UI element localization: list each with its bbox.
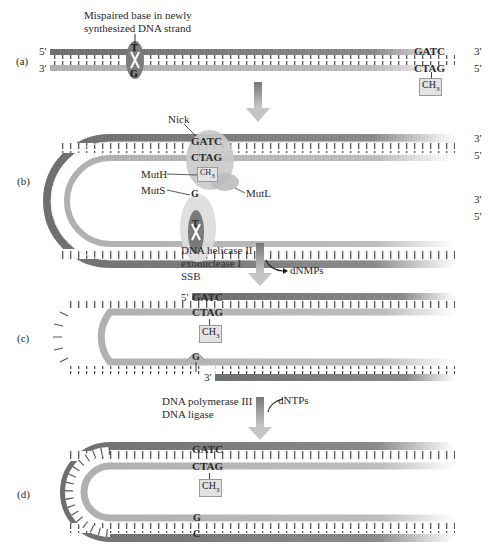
arrow-step-a-b [246, 82, 270, 122]
panel-b-label: (b) [17, 175, 30, 188]
step1-enzyme-list: DNA helicase II exonuclease I SSB [181, 244, 252, 283]
panel-b-end-3: 3' [474, 193, 481, 206]
mismatch-base-g-b: G [191, 187, 199, 200]
ctag-site-c: CTAG [192, 306, 223, 319]
ctag-site-d: CTAG [192, 460, 223, 473]
dntps-substrate: dNTPs [278, 394, 309, 407]
mismatch-base-t-b: T [192, 217, 199, 230]
mismatch-base-g: G [130, 67, 138, 80]
panel-a-label: (a) [16, 55, 28, 68]
muth-label: MutH [141, 168, 167, 181]
nick-label: Nick [168, 113, 189, 126]
methyl-group-d: CH3 [199, 479, 222, 497]
base-g-c: G [192, 350, 200, 363]
enzyme-dna-polymerase-iii: DNA polymerase III [162, 395, 252, 408]
panel-c-5prime: 5' [181, 291, 188, 304]
caption-line-1: Mispaired base in newly [84, 9, 188, 22]
methyl-subscript: 3 [216, 486, 220, 494]
panel-a-3prime-right: 3' [474, 45, 481, 58]
methyl-text: CH [422, 79, 436, 90]
panel-a-5prime-left: 5' [39, 45, 46, 58]
panel-c-3prime: 3' [204, 371, 211, 384]
methyl-text: CH [202, 326, 216, 337]
dnmps-product: dNMPs [290, 264, 324, 277]
enzyme-exonuclease-i: exonuclease I [181, 257, 252, 270]
methyl-subscript: 3 [216, 332, 220, 340]
step2-enzyme-list: DNA polymerase III DNA ligase [162, 395, 252, 421]
methyl-subscript: 3 [436, 85, 440, 93]
mutl-label: MutL [246, 187, 271, 200]
panel-a [50, 34, 455, 79]
enzyme-dna-helicase-ii: DNA helicase II [181, 244, 252, 257]
methyl-text: CH [200, 168, 211, 177]
muts-label: MutS [141, 184, 165, 197]
methyl-group-c: CH3 [199, 325, 222, 343]
enzyme-dna-ligase: DNA ligase [162, 408, 252, 421]
mismatch-base-t: T [131, 41, 138, 54]
ctag-site-b: CTAG [191, 151, 222, 164]
panel-d [64, 446, 455, 538]
gatc-site-b: GATC [191, 135, 222, 148]
gatc-site-c: GATC [192, 291, 223, 304]
base-c-d: C [193, 527, 200, 540]
caption-line-2: synthesized DNA strand [84, 22, 188, 35]
methyl-text: CH [202, 480, 216, 491]
base-g-d: G [193, 511, 201, 524]
panel-c-label: (c) [17, 332, 29, 345]
panel-c [53, 293, 455, 381]
panel-d-label: (d) [17, 488, 30, 501]
methyl-group-a: CH3 [419, 78, 442, 96]
gatc-site-a: GATC [414, 45, 445, 58]
ctag-site-a: CTAG [414, 62, 445, 75]
methyl-group-b: CH3 [197, 167, 218, 182]
panel-b-end-2: 5' [474, 149, 481, 162]
panel-a-3prime-left: 3' [39, 62, 46, 75]
methyl-subscript: 3 [211, 172, 215, 180]
panel-b-end-4: 5' [474, 210, 481, 223]
gatc-site-d: GATC [192, 443, 223, 456]
enzyme-ssb: SSB [181, 270, 252, 283]
panel-b-end-1: 3' [474, 132, 481, 145]
mispaired-base-caption: Mispaired base in newly synthesized DNA … [84, 9, 188, 35]
panel-a-5prime-right: 5' [474, 62, 481, 75]
